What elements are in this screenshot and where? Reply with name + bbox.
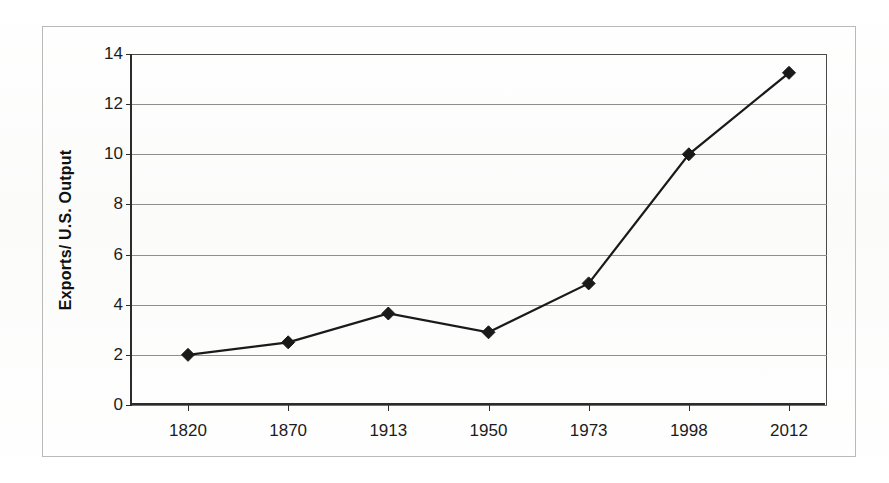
chart-screenshot: Exports/ U.S. Output 02468101214 1820187…: [0, 0, 889, 483]
y-tick-label: 12: [104, 94, 123, 114]
y-tick-mark: [126, 405, 132, 406]
x-tick-label: 1913: [369, 421, 407, 441]
y-tick-label: 8: [114, 194, 123, 214]
plot-area: 02468101214 1820187019131950197319982012: [130, 54, 825, 405]
series-markers: [182, 66, 796, 361]
x-tick-label: 1973: [570, 421, 608, 441]
data-point-marker: [382, 307, 395, 320]
y-tick-label: 6: [114, 245, 123, 265]
x-tick-label: 1870: [269, 421, 307, 441]
y-tick-label: 2: [114, 345, 123, 365]
y-tick-label: 4: [114, 295, 123, 315]
y-tick-label: 10: [104, 144, 123, 164]
x-tick-label: 1998: [670, 421, 708, 441]
y-axis-title-label: Exports/ U.S. Output: [57, 149, 75, 309]
x-tick-label: 1950: [470, 421, 508, 441]
data-point-marker: [482, 326, 495, 339]
data-point-marker: [282, 336, 295, 349]
x-tick-label: 2012: [770, 421, 808, 441]
y-tick-label: 0: [114, 395, 123, 415]
y-axis-title: Exports/ U.S. Output: [55, 54, 77, 405]
series-polyline: [188, 73, 789, 355]
y-tick-label: 14: [104, 44, 123, 64]
gridline: [132, 405, 827, 406]
data-point-marker: [182, 348, 195, 361]
x-tick-label: 1820: [169, 421, 207, 441]
data-series-line: [132, 54, 827, 405]
